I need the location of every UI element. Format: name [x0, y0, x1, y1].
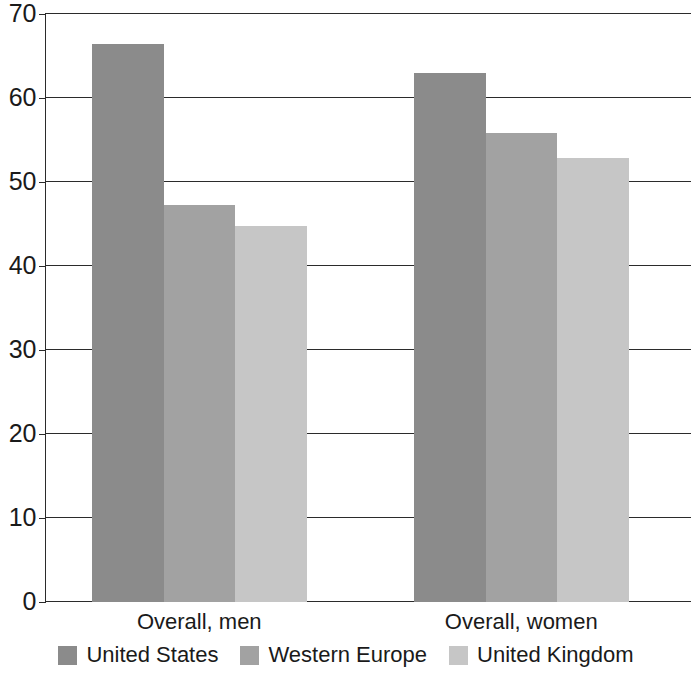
bar [486, 133, 558, 602]
legend-swatch-icon [58, 646, 77, 665]
x-axis-category-label: Overall, men [59, 608, 339, 636]
legend-item-label: Western Europe [268, 643, 427, 667]
legend-item[interactable]: Western Europe [240, 643, 427, 667]
y-tick-mark [39, 518, 46, 519]
y-tick-label: 10 [0, 505, 36, 530]
y-tick-label: 50 [0, 169, 36, 194]
y-tick-mark [39, 182, 46, 183]
y-axis-tick-labels: 010203040506070 [0, 0, 36, 675]
legend-item[interactable]: United Kingdom [449, 643, 634, 667]
legend-item[interactable]: United States [58, 643, 218, 667]
bar [92, 44, 164, 602]
legend-item-label: United States [86, 643, 218, 667]
bar [235, 226, 307, 602]
y-tick-mark [39, 98, 46, 99]
y-tick-mark [39, 266, 46, 267]
y-tick-mark [39, 14, 46, 15]
bar [164, 205, 236, 602]
x-axis-category-labels: Overall, menOverall, women [45, 608, 691, 640]
y-tick-label: 0 [0, 589, 36, 614]
legend-item-label: United Kingdom [477, 643, 634, 667]
legend-swatch-icon [449, 646, 468, 665]
legend-swatch-icon [240, 646, 259, 665]
y-tick-label: 20 [0, 421, 36, 446]
y-tick-label: 40 [0, 253, 36, 278]
y-tick-label: 60 [0, 85, 36, 110]
y-tick-mark [39, 602, 46, 603]
bar-chart: 010203040506070 Overall, menOverall, wom… [0, 0, 692, 675]
bar [414, 73, 486, 602]
y-tick-label: 70 [0, 1, 36, 26]
y-tick-mark [39, 350, 46, 351]
plot-area [45, 14, 691, 602]
legend: United StatesWestern EuropeUnited Kingdo… [0, 643, 692, 667]
bar [557, 158, 629, 602]
x-axis-category-label: Overall, women [381, 608, 661, 636]
y-tick-label: 30 [0, 337, 36, 362]
gridline-70 [45, 13, 691, 14]
y-tick-mark [39, 434, 46, 435]
